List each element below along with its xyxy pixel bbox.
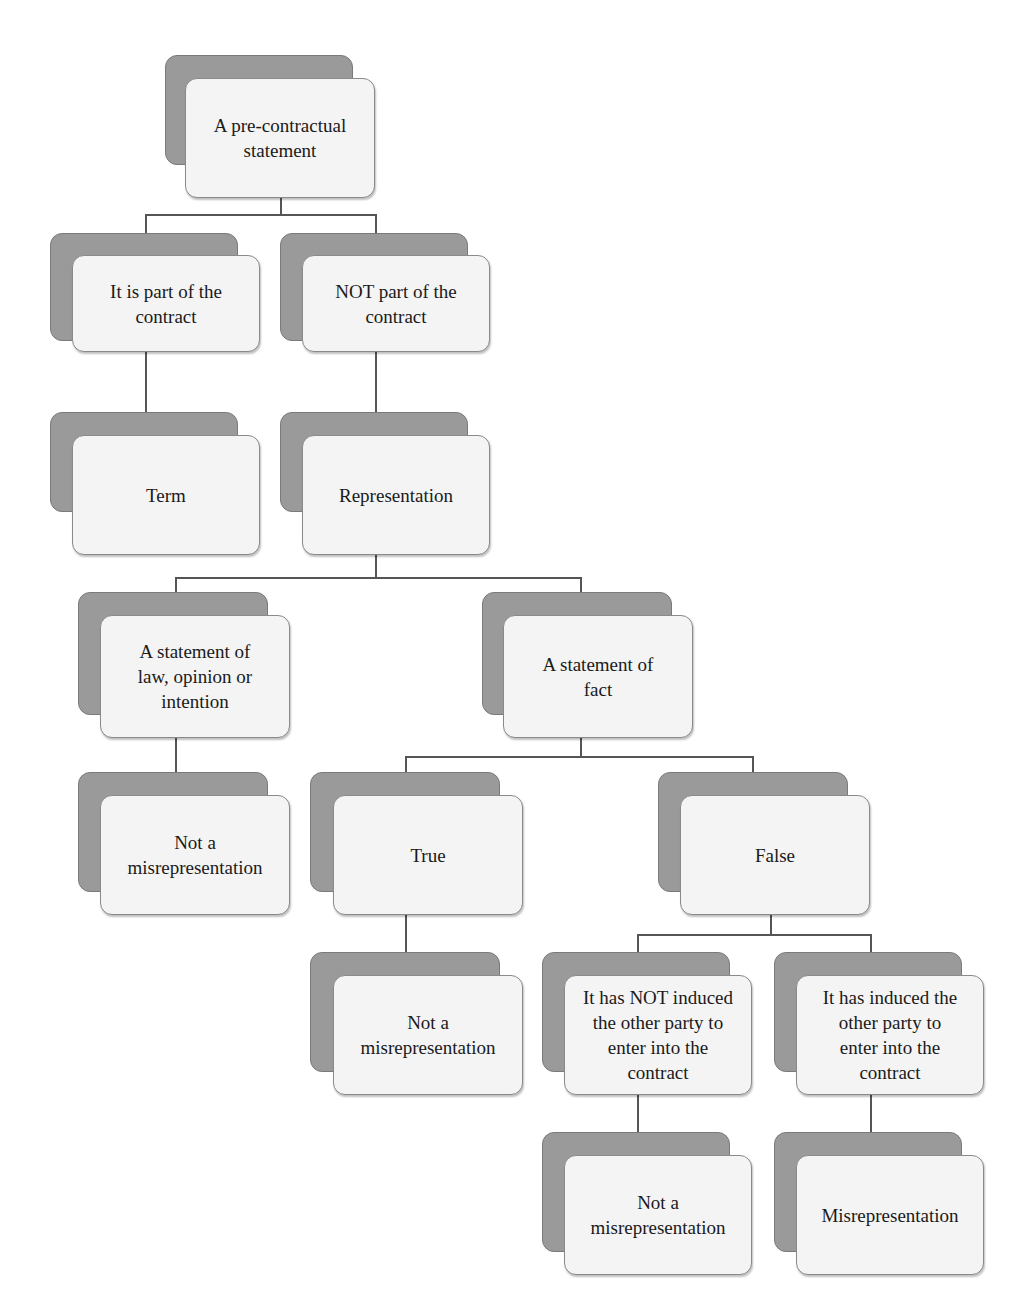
- connector: [375, 214, 377, 233]
- connector: [870, 1095, 872, 1132]
- node-label: Not a misrepresentation: [100, 795, 290, 915]
- connector: [145, 214, 376, 216]
- node-label: A statement of fact: [503, 615, 693, 738]
- connector: [145, 352, 147, 412]
- node-label: Not a misrepresentation: [333, 975, 523, 1095]
- connector: [145, 214, 147, 233]
- node-label: NOT part of the contract: [302, 255, 490, 352]
- connector: [637, 934, 871, 936]
- node-label: Representation: [302, 435, 490, 555]
- connector: [405, 756, 407, 772]
- connector: [175, 738, 177, 772]
- connector: [580, 738, 582, 757]
- connector: [405, 756, 753, 758]
- node-label: A statement of law, opinion or intention: [100, 615, 290, 738]
- connector: [375, 555, 377, 578]
- node-label: Term: [72, 435, 260, 555]
- connector: [375, 352, 377, 412]
- node-label: Not a misrepresentation: [564, 1155, 752, 1275]
- connector: [770, 915, 772, 935]
- node-label: It has induced the other party to enter …: [796, 975, 984, 1095]
- connector: [175, 577, 581, 579]
- node-label: A pre-contractual statement: [185, 78, 375, 198]
- connector: [580, 577, 582, 592]
- node-label: It has NOT induced the other party to en…: [564, 975, 752, 1095]
- connector: [405, 915, 407, 952]
- node-label: True: [333, 795, 523, 915]
- connector: [175, 577, 177, 592]
- connector: [637, 1095, 639, 1132]
- connector: [752, 756, 754, 772]
- connector: [280, 198, 282, 215]
- node-label: Misrepresentation: [796, 1155, 984, 1275]
- connector: [870, 934, 872, 952]
- node-label: It is part of the contract: [72, 255, 260, 352]
- connector: [637, 934, 639, 952]
- node-label: False: [680, 795, 870, 915]
